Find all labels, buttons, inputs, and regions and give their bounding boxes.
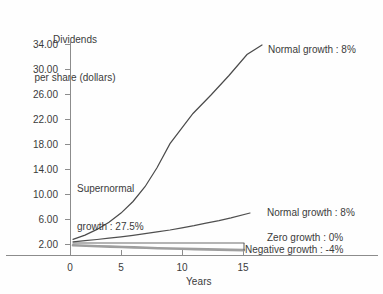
annotation-supernormal-line1: Supernormal [77, 183, 177, 196]
annotation-normal-growth-top: Normal growth : 8% [268, 44, 356, 55]
annotation-zero-growth: Zero growth : 0% [267, 232, 343, 243]
annotation-supernormal-growth: Supernormal growth : 27.5% [77, 158, 177, 258]
annotation-supernormal-line2: growth : 27.5% [77, 221, 177, 234]
dividend-growth-chart: Dividends per share (dollars) 34.00 30.0… [0, 0, 383, 294]
annotation-negative-growth: Negative growth : -4% [245, 244, 343, 255]
annotation-normal-growth-right: Normal growth : 8% [267, 207, 355, 218]
y-tick-marks [65, 45, 70, 245]
